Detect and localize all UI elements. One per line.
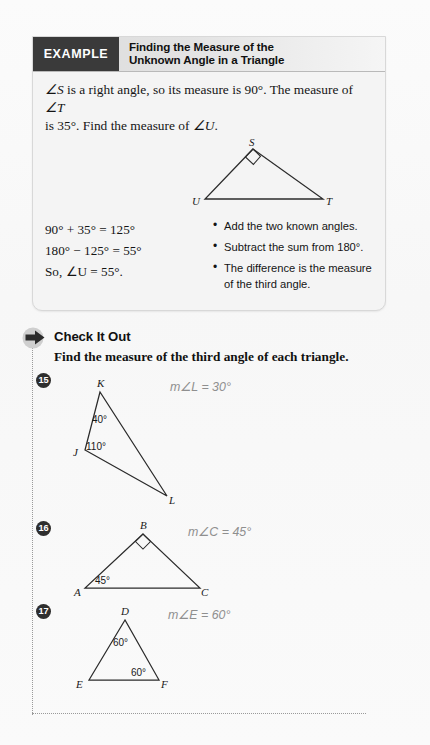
svg-text:A: A bbox=[73, 586, 81, 598]
svg-text:110°: 110° bbox=[86, 441, 106, 452]
svg-text:F: F bbox=[160, 678, 168, 690]
example-title-line-1: Finding the Measure of the bbox=[129, 41, 284, 54]
example-box: EXAMPLE Finding the Measure of the Unkno… bbox=[32, 36, 386, 311]
solution-step: 90° + 35° = 125° bbox=[45, 219, 213, 240]
triangle-ABC-svg: B A C 45° bbox=[55, 516, 225, 598]
solution-note-text: The difference is the measure of the thi… bbox=[224, 262, 372, 290]
right-arrow-icon bbox=[22, 327, 48, 349]
svg-text:T: T bbox=[326, 195, 333, 207]
solution-note-text: Add the two known angles. bbox=[224, 220, 358, 232]
check-it-out-instruction: Find the measure of the third angle of e… bbox=[54, 349, 348, 365]
solution-steps: 90° + 35° = 125° 180° − 125° = 55° So, ∠… bbox=[45, 219, 213, 298]
check-it-out-heading: Check It Out bbox=[54, 329, 130, 344]
example-solution: 90° + 35° = 125° 180° − 125° = 55° So, ∠… bbox=[45, 219, 373, 298]
svg-text:U: U bbox=[192, 195, 201, 207]
example-body: ∠S is a right angle, so its measure is 9… bbox=[33, 72, 385, 310]
triangle-DEF-svg: D E F 60° 60° bbox=[55, 602, 205, 697]
solution-step: So, ∠U = 55°. bbox=[45, 261, 213, 282]
solution-step: 180° − 125° = 55° bbox=[45, 240, 213, 261]
example-title-line-2: Unknown Angle in a Triangle bbox=[129, 54, 284, 67]
figure-triangle-JKL: K J L 40° 110° bbox=[55, 370, 195, 510]
problem-number-badge: 16 bbox=[36, 521, 51, 536]
problem-number-badge: 15 bbox=[36, 373, 51, 388]
section-dotted-rule-left bbox=[32, 330, 33, 715]
svg-text:E: E bbox=[75, 678, 83, 690]
triangle-JKL-svg: K J L 40° 110° bbox=[55, 370, 195, 510]
solution-note: • Subtract the sum from 180°. bbox=[213, 240, 373, 256]
svg-text:J: J bbox=[73, 446, 79, 458]
textbook-page: EXAMPLE Finding the Measure of the Unkno… bbox=[0, 0, 430, 745]
svg-text:40°: 40° bbox=[92, 414, 107, 425]
svg-text:C: C bbox=[201, 586, 209, 598]
problem-number-badge: 17 bbox=[36, 604, 51, 619]
bullet-icon: • bbox=[213, 218, 217, 234]
figure-triangle-ABC: B A C 45° bbox=[55, 516, 225, 598]
triangle-SUT-svg: S U T bbox=[45, 137, 375, 215]
solution-note-text: Subtract the sum from 180°. bbox=[224, 241, 363, 253]
svg-text:45°: 45° bbox=[95, 575, 110, 586]
example-title: Finding the Measure of the Unknown Angle… bbox=[119, 37, 284, 71]
svg-text:K: K bbox=[96, 377, 105, 389]
svg-text:L: L bbox=[168, 494, 175, 506]
solution-notes: • Add the two known angles. • Subtract t… bbox=[213, 219, 373, 298]
example-figure-right-triangle: S U T bbox=[45, 137, 373, 215]
section-dotted-rule-bottom bbox=[32, 713, 366, 714]
example-header: EXAMPLE Finding the Measure of the Unkno… bbox=[33, 37, 385, 72]
svg-text:D: D bbox=[120, 605, 129, 617]
svg-text:60°: 60° bbox=[131, 667, 146, 678]
svg-text:60°: 60° bbox=[113, 637, 128, 648]
solution-note: • The difference is the measure of the t… bbox=[213, 261, 373, 292]
figure-triangle-DEF: D E F 60° 60° bbox=[55, 602, 205, 697]
solution-note: • Add the two known angles. bbox=[213, 219, 373, 235]
bullet-icon: • bbox=[213, 260, 217, 276]
svg-text:B: B bbox=[140, 519, 147, 531]
example-tag-label: EXAMPLE bbox=[33, 37, 119, 71]
bullet-icon: • bbox=[213, 239, 217, 255]
svg-text:S: S bbox=[249, 137, 255, 148]
example-problem-statement: ∠S is a right angle, so its measure is 9… bbox=[45, 81, 373, 135]
